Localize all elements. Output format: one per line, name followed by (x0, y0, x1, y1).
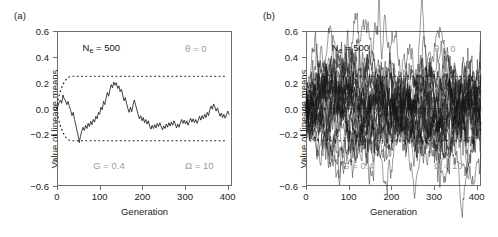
panel-b: (b) Value of lineage means Generation 0.… (249, 0, 498, 237)
y-tick-mark (302, 57, 306, 58)
x-tick-mark (477, 186, 478, 190)
lineage-trajectory (57, 82, 229, 143)
y-tick-mark (53, 160, 57, 161)
y-tick-label: −0.6 (9, 181, 49, 192)
y-tick-label: 0.0 (9, 103, 49, 114)
x-tick-mark (228, 186, 229, 190)
figure-two-panel-lineage-means: (a) Value of lineage means Generation 0.… (0, 0, 498, 237)
annotation-theta: θ = 0 (185, 42, 206, 53)
annotation-theta: θ = 0 (434, 42, 455, 53)
x-tick-label: 0 (54, 191, 59, 202)
y-tick-mark (53, 134, 57, 135)
x-tick-mark (142, 186, 143, 190)
y-tick-mark (53, 109, 57, 110)
y-tick-label: 0.4 (9, 51, 49, 62)
x-tick-mark (391, 186, 392, 190)
y-tick-mark (302, 109, 306, 110)
x-tick-mark (306, 186, 307, 190)
annotation-omega: Ω = 10 (434, 160, 463, 171)
y-tick-label: −0.2 (9, 129, 49, 140)
y-tick-label: 0.2 (258, 77, 298, 88)
y-tick-label: 0.6 (258, 26, 298, 37)
x-tick-label: 300 (177, 191, 193, 202)
annotation-ne: Ne = 500 (332, 41, 369, 54)
y-tick-label: 0.4 (258, 51, 298, 62)
y-tick-label: 0.0 (258, 103, 298, 114)
y-tick-mark (53, 31, 57, 32)
y-tick-mark (302, 160, 306, 161)
panel-a: (a) Value of lineage means Generation 0.… (0, 0, 249, 237)
envelope-lower (57, 109, 228, 141)
x-tick-mark (100, 186, 101, 190)
y-tick-mark (302, 83, 306, 84)
x-tick-label: 0 (303, 191, 308, 202)
x-tick-mark (349, 186, 350, 190)
y-tick-mark (302, 31, 306, 32)
x-tick-label: 200 (383, 191, 399, 202)
x-tick-mark (434, 186, 435, 190)
x-tick-label: 400 (220, 191, 236, 202)
panel-b-plot-area: 0.60.40.20.0−0.2−0.60100200300400 Ne = 5… (306, 31, 481, 186)
panel-b-x-axis-label: Generation (306, 206, 481, 217)
panel-b-label: (b) (263, 10, 275, 21)
y-tick-mark (302, 134, 306, 135)
annotation-g: G = 0.4 (342, 160, 373, 171)
y-tick-mark (53, 83, 57, 84)
y-tick-label: −0.6 (258, 181, 298, 192)
y-tick-label: −0.2 (258, 129, 298, 140)
x-tick-label: 300 (426, 191, 442, 202)
x-tick-mark (185, 186, 186, 190)
x-tick-label: 100 (92, 191, 108, 202)
x-tick-label: 200 (134, 191, 150, 202)
annotation-omega: Ω = 10 (185, 160, 214, 171)
x-tick-label: 100 (341, 191, 357, 202)
annotation-ne: Ne = 500 (83, 41, 120, 54)
annotation-g: G = 0.4 (93, 160, 124, 171)
x-tick-label: 400 (469, 191, 485, 202)
envelope-upper (57, 76, 228, 108)
y-tick-label: 0.2 (9, 77, 49, 88)
x-tick-mark (57, 186, 58, 190)
panel-a-plot-area: 0.60.40.20.0−0.2−0.60100200300400 Ne = 5… (57, 31, 232, 186)
y-tick-label: 0.6 (9, 26, 49, 37)
panel-a-x-axis-label: Generation (57, 206, 232, 217)
y-tick-mark (53, 57, 57, 58)
panel-a-label: (a) (14, 10, 26, 21)
